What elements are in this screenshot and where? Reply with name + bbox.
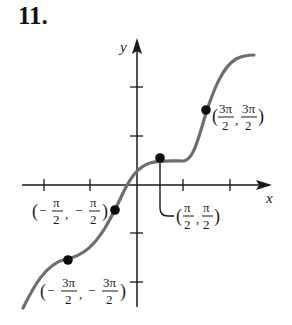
svg-text:2: 2 (53, 212, 60, 227)
y-axis: y (118, 38, 143, 307)
graph: x y ( 3π 2 , 3π 2 ) ( π 2 , π 2 (0, 0, 292, 325)
svg-text:π: π (203, 200, 210, 215)
svg-text:,: , (196, 211, 199, 226)
svg-text:2: 2 (90, 212, 97, 227)
svg-text:(: ( (212, 106, 218, 127)
svg-text:−: − (39, 203, 46, 218)
svg-text:−: − (88, 283, 95, 298)
svg-text:2: 2 (203, 217, 210, 232)
svg-text:): ) (258, 106, 264, 127)
svg-text:2: 2 (245, 118, 252, 133)
point-neg-3pi2 (63, 255, 73, 265)
svg-text:−: − (75, 203, 82, 218)
svg-text:−: − (47, 283, 54, 298)
point-neg-pi2 (110, 205, 120, 215)
svg-text:2: 2 (106, 292, 113, 307)
x-axis-label: x (265, 190, 273, 206)
label-3pi2: ( 3π 2 , 3π 2 ) (212, 101, 264, 133)
svg-text:π: π (90, 195, 97, 210)
svg-text:3π: 3π (242, 101, 256, 116)
svg-text:,: , (79, 286, 82, 301)
svg-text:(: ( (40, 281, 46, 302)
point-3pi2 (201, 105, 211, 115)
svg-text:3π: 3π (103, 275, 117, 290)
svg-text:(: ( (176, 206, 182, 227)
svg-text:2: 2 (222, 118, 229, 133)
svg-text:): ) (102, 201, 108, 222)
svg-text:2: 2 (184, 217, 191, 232)
label-neg-3pi2: ( − 3π 2 , − 3π 2 ) (40, 275, 126, 307)
svg-text:,: , (65, 206, 68, 221)
svg-text:3π: 3π (62, 275, 76, 290)
label-pi2: ( π 2 , π 2 ) (176, 200, 220, 232)
svg-text:π: π (184, 200, 191, 215)
svg-text:,: , (235, 112, 238, 127)
point-pi2 (155, 153, 165, 163)
leader-line (160, 163, 174, 216)
svg-text:2: 2 (65, 292, 72, 307)
label-neg-pi2: ( − π 2 , − π 2 ) (32, 195, 108, 227)
y-axis-label: y (118, 39, 127, 55)
svg-text:3π: 3π (219, 101, 233, 116)
svg-text:): ) (120, 281, 126, 302)
function-curve (23, 55, 254, 308)
svg-text:): ) (214, 206, 220, 227)
x-axis: x (22, 179, 273, 206)
svg-text:π: π (53, 195, 60, 210)
svg-text:(: ( (32, 201, 38, 222)
